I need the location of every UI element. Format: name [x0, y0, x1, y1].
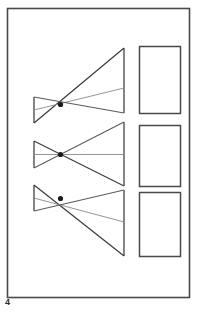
crossing-node-bottom [58, 196, 63, 201]
figure-number-label: 4 [5, 296, 10, 308]
figure-page: 4 [0, 0, 198, 314]
crossing-node-middle [58, 152, 63, 157]
figure-border [8, 9, 190, 298]
figure-diagram [0, 0, 198, 314]
crossing-node-top [58, 102, 63, 107]
